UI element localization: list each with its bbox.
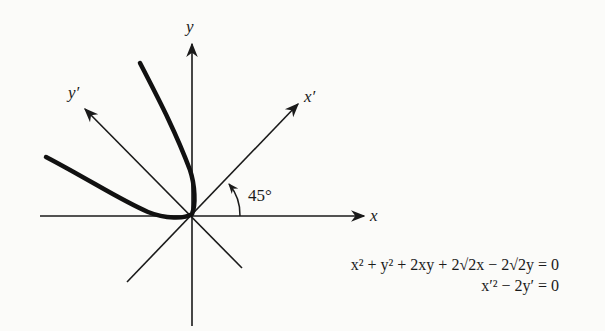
angle-label: 45° (248, 187, 272, 204)
x-axis-label: x (370, 207, 378, 224)
y-axis-label: y (186, 18, 194, 35)
y-prime-axis-label: y′ (68, 84, 79, 101)
x-prime-axis (127, 104, 298, 282)
original-equation: x² + y² + 2xy + 2√2x − 2√2y = 0 (351, 257, 559, 273)
x-prime-axis-label: x′ (304, 88, 315, 105)
rotated-equation: x′² − 2y′ = 0 (481, 278, 559, 294)
angle-arc (229, 184, 240, 216)
